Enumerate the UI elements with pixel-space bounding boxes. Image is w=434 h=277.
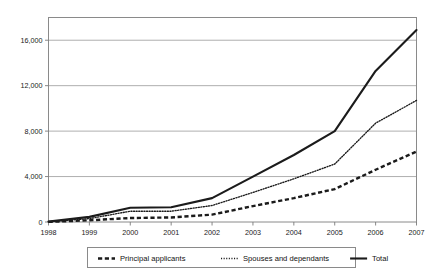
- legend-label-total: Total: [372, 254, 388, 263]
- y-tick-label: 12,000: [21, 81, 43, 90]
- x-tick-label: 2002: [204, 228, 220, 237]
- x-tick-label: 1999: [81, 228, 97, 237]
- y-tick-label: 16,000: [21, 36, 43, 45]
- y-tick-label: 4,000: [25, 172, 43, 181]
- y-tick-label: 0: [39, 218, 43, 227]
- x-tick-label: 1998: [41, 228, 57, 237]
- x-tick-label: 2005: [327, 228, 343, 237]
- chart-canvas: 04,0008,00012,00016,000 1998199920002001…: [0, 0, 434, 277]
- legend-label-spouses-and-dependants: Spouses and dependants: [243, 254, 329, 263]
- x-tick-label: 2006: [368, 228, 384, 237]
- legend-label-principal-applicants: Principal applicants: [120, 254, 186, 263]
- x-tick-label: 2001: [163, 228, 179, 237]
- y-tick-label: 8,000: [25, 127, 43, 136]
- x-tick-label: 2007: [409, 228, 425, 237]
- x-tick-label: 2000: [122, 228, 138, 237]
- x-tick-label: 2003: [245, 228, 261, 237]
- chart-legend: Principal applicantsSpouses and dependan…: [88, 248, 389, 268]
- x-tick-label: 2004: [286, 228, 302, 237]
- line-chart: 04,0008,00012,00016,000 1998199920002001…: [0, 0, 434, 277]
